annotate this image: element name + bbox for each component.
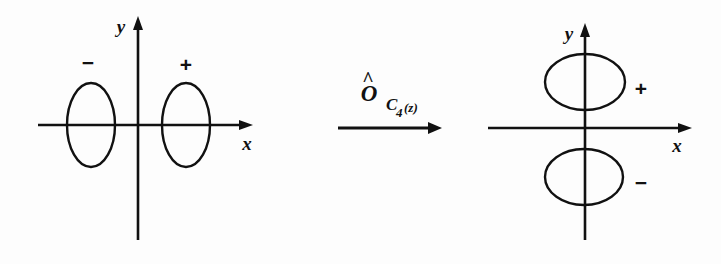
left-y-axis-arrowhead: [133, 16, 143, 30]
right-y-axis-label: y: [563, 23, 574, 44]
right-x-axis-arrowhead: [678, 123, 692, 133]
right-negative-sign-label: −: [635, 171, 647, 194]
right-y-axis-arrowhead: [580, 23, 590, 37]
right-positive-sign-label: +: [635, 77, 647, 100]
left-negative-sign-label: −: [82, 51, 94, 74]
operator-sub-argument: (z): [404, 100, 418, 115]
orbital-rotation-figure: y x − + ^ O C 4 (z): [0, 0, 721, 264]
operator-base-symbol: O: [361, 81, 378, 106]
transformation-operator: ^ O C 4 (z): [338, 68, 442, 134]
right-panel: y x + −: [488, 23, 692, 240]
left-x-axis-label: x: [241, 133, 252, 154]
left-y-axis: [133, 16, 143, 240]
left-positive-sign-label: +: [180, 53, 192, 76]
right-x-axis-label: x: [671, 135, 682, 156]
right-y-axis: [580, 23, 590, 240]
figure-canvas: y x − + ^ O C 4 (z): [0, 0, 721, 264]
operator-arrow-head: [428, 122, 442, 134]
right-x-axis: [488, 123, 692, 133]
left-x-axis: [38, 120, 253, 130]
operator-sub-subscript-number: 4: [395, 105, 403, 120]
left-x-axis-arrowhead: [239, 120, 253, 130]
left-y-axis-label: y: [115, 16, 126, 37]
left-panel: y x − +: [38, 16, 253, 240]
